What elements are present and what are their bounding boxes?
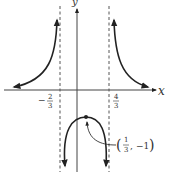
asymptote-right-label: 4 3 — [113, 93, 119, 110]
fraction-numerator: 2 — [48, 93, 52, 101]
point-x-numerator: 1 — [124, 136, 128, 144]
asymptote-left-label: − 2 3 — [38, 93, 53, 110]
close-paren: ) — [149, 137, 154, 153]
x-axis-label: x — [158, 84, 165, 98]
point-label: ( 1 3 , −1 ) — [116, 136, 154, 154]
fraction-denominator: 3 — [114, 102, 118, 110]
minus-sign: − — [38, 95, 46, 105]
fraction-denominator: 3 — [48, 102, 52, 110]
fraction-numerator: 4 — [114, 93, 119, 101]
curve-left-branch — [14, 20, 57, 87]
point-y-value: −1 — [136, 141, 149, 151]
y-axis-label: y — [71, 0, 78, 7]
curve-middle-branch — [64, 117, 106, 166]
curve-right-branch — [114, 20, 148, 87]
comma: , — [130, 141, 133, 151]
local-maximum-point — [84, 115, 88, 119]
function-graph: x y − 2 3 4 3 ( 1 3 , −1 ) — [0, 0, 171, 174]
open-paren: ( — [116, 137, 121, 153]
point-x-denominator: 3 — [124, 146, 128, 154]
